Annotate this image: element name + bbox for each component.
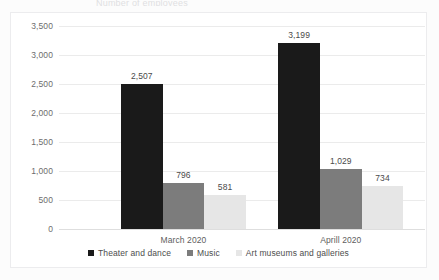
bar-value-label: 1,029 xyxy=(330,156,352,166)
y-axis-tick-label: 500 xyxy=(39,195,53,205)
y-axis-tick-label: 3,500 xyxy=(31,21,53,31)
legend-label: Music xyxy=(197,248,220,258)
bar-group: 3,1991,029734Aprill 2020 xyxy=(278,26,403,229)
legend-swatch-icon xyxy=(236,250,242,256)
bar-group-bars: 3,1991,029734 xyxy=(278,26,403,229)
bar-group-bars: 2,507796581 xyxy=(121,26,246,229)
legend-label: Art museums and galleries xyxy=(246,248,349,258)
legend-item[interactable]: Theater and dance xyxy=(88,248,171,258)
bar-value-label: 3,199 xyxy=(288,30,310,40)
y-axis-tick-label: 1,500 xyxy=(31,137,53,147)
cropped-title-remnant: Number of employees xyxy=(96,0,246,6)
bar-fill xyxy=(204,195,246,229)
legend-item[interactable]: Art museums and galleries xyxy=(236,248,349,258)
bar-fill xyxy=(278,43,320,229)
chart-frame: 3,5003,0002,5002,0001,5001,00050002,5077… xyxy=(10,12,427,268)
gridline xyxy=(59,229,425,230)
bar-fill xyxy=(362,186,404,229)
bar-fill xyxy=(163,183,205,229)
chart-legend: Theater and danceMusicArt museums and ga… xyxy=(11,248,426,258)
page-background: Number of employees 3,5003,0002,5002,000… xyxy=(0,0,439,280)
legend-swatch-icon xyxy=(187,250,193,256)
legend-label: Theater and dance xyxy=(98,248,171,258)
legend-swatch-icon xyxy=(88,250,94,256)
plot-area: 3,5003,0002,5002,0001,5001,00050002,5077… xyxy=(59,26,425,229)
bar-value-label: 734 xyxy=(375,173,389,183)
legend-item[interactable]: Music xyxy=(187,248,220,258)
x-axis-category-label: Aprill 2020 xyxy=(320,235,361,245)
x-axis-category-label: March 2020 xyxy=(160,235,206,245)
y-axis-tick-label: 2,500 xyxy=(31,79,53,89)
y-axis-tick-label: 2,000 xyxy=(31,108,53,118)
y-axis-tick-label: 0 xyxy=(48,224,53,234)
bar-value-label: 581 xyxy=(218,182,232,192)
bar-fill xyxy=(320,169,362,229)
bar-value-label: 2,507 xyxy=(131,71,153,81)
y-axis-tick-label: 3,000 xyxy=(31,50,53,60)
bar-group: 2,507796581March 2020 xyxy=(121,26,246,229)
y-axis-tick-label: 1,000 xyxy=(31,166,53,176)
bar-fill xyxy=(121,84,163,229)
bar-value-label: 796 xyxy=(176,170,190,180)
